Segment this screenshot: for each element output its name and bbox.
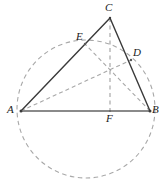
segment-CB bbox=[110, 18, 150, 111]
vertex-label-C: C bbox=[105, 2, 112, 13]
cevian-AD bbox=[21, 60, 131, 111]
vertex-label-E: E bbox=[76, 31, 83, 42]
vertex-label-F: F bbox=[106, 113, 113, 124]
vertex-label-B: B bbox=[152, 104, 159, 115]
vertex-point-D bbox=[130, 59, 132, 61]
circumscribed-circle bbox=[17, 40, 155, 178]
segment-AC bbox=[21, 18, 110, 111]
vertex-point-A bbox=[20, 110, 23, 113]
vertex-label-A: A bbox=[7, 104, 14, 115]
vertex-point-C bbox=[109, 17, 111, 19]
geometry-figure: A B C D E F bbox=[0, 0, 166, 186]
geometry-canvas bbox=[0, 0, 166, 186]
vertex-point-E bbox=[84, 43, 86, 45]
vertex-label-D: D bbox=[133, 47, 141, 58]
